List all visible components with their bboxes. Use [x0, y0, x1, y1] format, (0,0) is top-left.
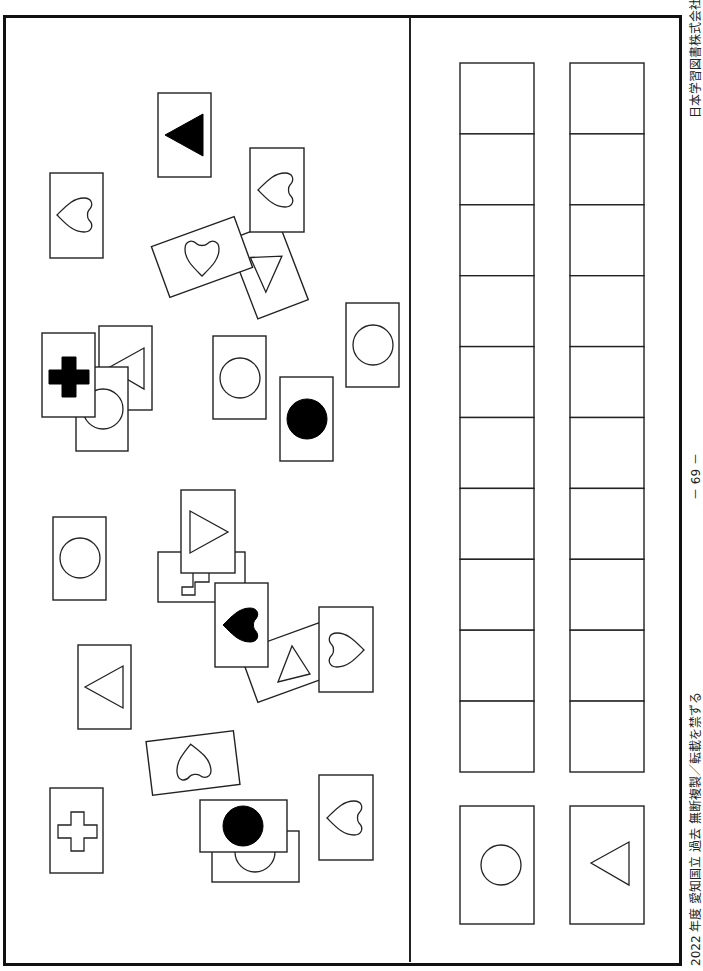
copyright-notice: 2022 年度 愛知国立 過去 無断複製／転載を禁ずる: [686, 692, 703, 966]
answer-cell[interactable]: [460, 559, 534, 630]
card-heart-outline: [250, 148, 304, 232]
answer-column-2: [570, 63, 644, 772]
answer-cell[interactable]: [570, 488, 644, 559]
answer-cell[interactable]: [460, 134, 534, 205]
card-plus-filled: [42, 333, 95, 417]
card-triangle-right-outline: [181, 490, 235, 573]
answer-cell[interactable]: [460, 418, 534, 489]
answer-cell[interactable]: [570, 63, 644, 134]
card-triangle-filled: [158, 93, 211, 177]
answer-column-1: [460, 63, 534, 772]
answer-cell[interactable]: [460, 488, 534, 559]
answer-cell[interactable]: [570, 347, 644, 418]
answer-cell[interactable]: [570, 134, 644, 205]
card-heart-outline: [319, 607, 373, 692]
answer-cell[interactable]: [460, 701, 534, 772]
card-heart-outline: [50, 173, 103, 258]
answer-cell[interactable]: [460, 276, 534, 347]
card-circle-filled: [200, 800, 287, 852]
card-triangle-left-outline: [78, 645, 131, 729]
card-heart-filled: [215, 583, 268, 667]
answer-cell[interactable]: [570, 418, 644, 489]
answer-cell[interactable]: [460, 63, 534, 134]
card-plus-outline: [50, 788, 103, 873]
key-card-circle: [460, 806, 534, 924]
answer-cell[interactable]: [570, 205, 644, 276]
answer-cell[interactable]: [570, 630, 644, 701]
card-circle-outline: [346, 303, 399, 387]
page-number: － 69 －: [686, 453, 703, 500]
answer-cell[interactable]: [460, 347, 534, 418]
card-heart-outline: [319, 775, 373, 860]
answer-cell[interactable]: [570, 276, 644, 347]
card-heart-rotated: [151, 217, 252, 298]
answer-cell[interactable]: [460, 205, 534, 276]
card-heart-rotated: [146, 731, 240, 795]
answer-cell[interactable]: [570, 559, 644, 630]
publisher-label: 日本学習図書株式会社: [686, 0, 703, 118]
card-circle-outline: [53, 517, 106, 600]
card-circle-outline: [213, 336, 266, 419]
answer-cell[interactable]: [460, 630, 534, 701]
answer-cell[interactable]: [570, 701, 644, 772]
card-circle-filled: [280, 377, 333, 461]
key-card-triangle: [570, 806, 644, 924]
